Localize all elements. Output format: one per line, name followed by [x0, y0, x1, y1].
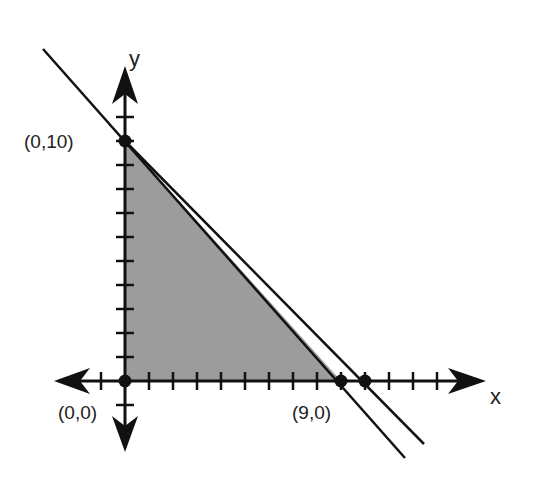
graph-canvas: (0,10) (0,0) (9,0) x y [0, 0, 537, 482]
point-9-0 [335, 375, 348, 388]
x-axis-label: x [490, 384, 501, 409]
constraint-line-1 [43, 49, 405, 458]
point-0-10 [119, 135, 132, 148]
label-point-9-0: (9,0) [292, 402, 331, 423]
point-0-0 [119, 375, 132, 388]
point-10-0 [359, 375, 372, 388]
label-point-0-10: (0,10) [24, 131, 74, 152]
y-axis-label: y [129, 46, 140, 71]
label-point-0-0: (0,0) [58, 402, 97, 423]
